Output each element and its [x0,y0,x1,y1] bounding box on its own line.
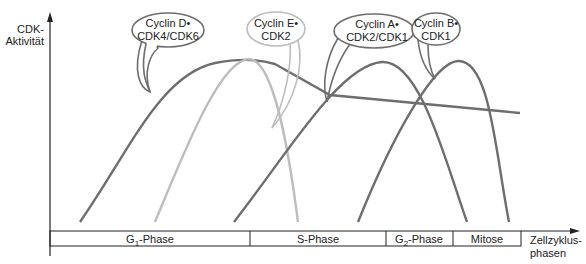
x-axis-label-line2: phasen [530,247,566,259]
bubble-cyclin-b-line1: Cyclin B• [414,17,458,29]
bubble-cyclin-e-line1: Cyclin E• [254,17,298,29]
bubble-cyclin-b-line2: CDK1 [421,30,450,42]
phase-mitose: Mitose [471,233,503,245]
phase-s: S-Phase [297,233,339,245]
bubble-cyclin-d-line1: Cyclin D• [146,17,191,29]
y-axis-label-line2: Aktivität [5,35,44,47]
bubble-cyclin-a-line1: Cyclin A• [355,18,399,30]
y-axis [47,12,53,256]
curve-cyclin-a [234,62,467,222]
cdk-activity-diagram: CDK- Aktivität G1-Phase S-Phase G2-Phase… [0,0,586,264]
bubble-cyclin-e-line2: CDK2 [261,30,290,42]
curve-cyclin-b [358,61,509,222]
x-axis-label-line1: Zellzyklus- [530,234,582,246]
y-axis-label-line1: CDK- [17,23,44,35]
bubble-cyclin-d-line2: CDK4/CDK6 [137,30,199,42]
y-axis-arrow-icon [47,12,53,22]
bubble-cyclin-a-line2: CDK2/CDK1 [346,31,408,43]
